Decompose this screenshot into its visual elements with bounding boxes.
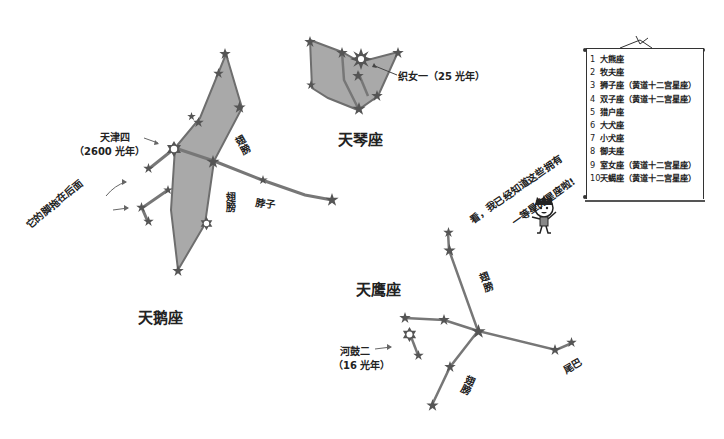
deneb-distance: （2600 光年） bbox=[74, 143, 145, 158]
cygnus-title: 天鹅座 bbox=[138, 306, 183, 327]
constellation-list-scroll: 1大熊座 2牧夫座 3狮子座（黄道十二宫星座） 4双子座（黄道十二宫星座） 5猎… bbox=[586, 48, 704, 199]
deneb-label: 天津四 bbox=[100, 129, 130, 144]
altair-label: 河鼓二 bbox=[340, 343, 370, 358]
list-item: 6大犬座 bbox=[590, 119, 703, 132]
list-item: 1大熊座 bbox=[590, 53, 703, 66]
list-item: 9室女座（黄道十二宫星座） bbox=[590, 159, 703, 172]
constellation-list: 1大熊座 2牧夫座 3狮子座（黄道十二宫星座） 4双子座（黄道十二宫星座） 5猎… bbox=[587, 49, 703, 185]
list-item: 8御夫座 bbox=[590, 145, 703, 158]
aquila-title: 天鹰座 bbox=[356, 278, 401, 299]
altair-distance: （16 光年） bbox=[333, 357, 390, 372]
lyra-title: 天琴座 bbox=[338, 128, 383, 149]
list-item: 10天蝎座（黄道十二宫星座） bbox=[590, 172, 703, 185]
list-item: 7小犬座 bbox=[590, 132, 703, 145]
cygnus-wing-bottom-label: 翅膀 bbox=[222, 192, 237, 212]
cygnus-neck-label: 脖子 bbox=[255, 194, 277, 212]
list-item: 3狮子座（黄道十二宫星座） bbox=[590, 79, 703, 92]
list-item: 4双子座（黄道十二宫星座） bbox=[590, 93, 703, 106]
list-item: 5猎户座 bbox=[590, 106, 703, 119]
cygnus-constellation bbox=[106, 48, 339, 276]
vega-label: 织女一（25 光年） bbox=[398, 68, 485, 83]
list-item: 2牧夫座 bbox=[590, 66, 703, 79]
lyra-constellation bbox=[304, 36, 403, 115]
